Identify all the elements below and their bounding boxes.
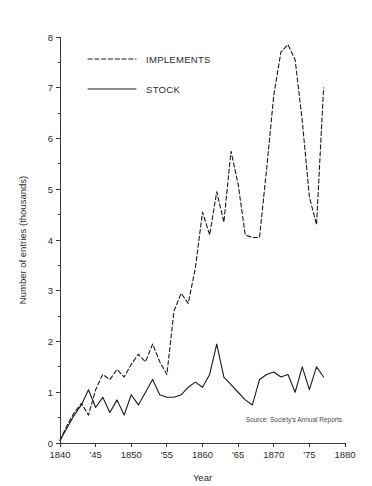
chart-container: 012345678 1840'451850'551860'651870'7518… xyxy=(0,0,372,486)
y-axis-tick-label: 7 xyxy=(48,82,53,93)
y-axis-tick-label: 8 xyxy=(48,32,53,43)
y-axis-tick-label: 0 xyxy=(48,438,53,449)
cropped-caption-artifact xyxy=(0,0,372,9)
y-axis-tick-label: 1 xyxy=(48,387,53,398)
legend-label-stock: STOCK xyxy=(146,84,180,95)
x-axis-tick-label: 1860 xyxy=(192,449,213,460)
series-line-implements xyxy=(60,45,324,441)
x-axis-tick-label: '75 xyxy=(303,449,315,460)
y-axis-tick-label: 3 xyxy=(48,285,53,296)
chart-legend: IMPLEMENTSSTOCK xyxy=(88,54,211,95)
y-axis-title: Number of entries (thousands) xyxy=(17,176,28,304)
x-axis-tick-label: '55 xyxy=(161,449,173,460)
y-axis-tick-label: 5 xyxy=(48,184,53,195)
x-axis-tick-label: 1850 xyxy=(121,449,142,460)
legend-label-implements: IMPLEMENTS xyxy=(146,54,211,65)
y-axis-tick-label: 4 xyxy=(48,235,53,246)
y-axis-tick-label: 2 xyxy=(48,336,53,347)
series-line-stock xyxy=(60,344,324,440)
x-axis-tick-label: 1840 xyxy=(49,449,70,460)
x-axis-tick-label: '45 xyxy=(89,449,101,460)
y-axis-tick-label: 6 xyxy=(48,133,53,144)
source-annotation: Source: Society's Annual Reports xyxy=(246,416,343,424)
x-axis-tick-label: '65 xyxy=(232,449,244,460)
data-series-group xyxy=(60,45,324,441)
x-axis-tick-label: 1870 xyxy=(263,449,284,460)
line-chart: 012345678 1840'451850'551860'651870'7518… xyxy=(0,0,372,486)
x-axis-tick-label: 1880 xyxy=(334,449,355,460)
y-axis: 012345678 xyxy=(48,32,60,449)
x-axis-title: Year xyxy=(193,472,212,483)
x-axis: 1840'451850'551860'651870'751880 xyxy=(49,443,355,460)
axis-titles: Number of entries (thousands)YearSource:… xyxy=(17,176,343,483)
